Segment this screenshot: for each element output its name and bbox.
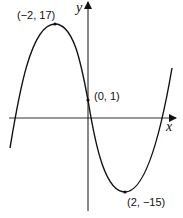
cubic-graph: (−2, 17) (0, 1) (2, −15) x y	[0, 0, 183, 218]
max-point-marker	[53, 22, 56, 25]
max-point-label: (−2, 17)	[17, 9, 55, 21]
min-point-label: (2, −15)	[127, 196, 165, 208]
cubic-curve	[10, 24, 172, 192]
intercept-point-label: (0, 1)	[94, 90, 120, 102]
x-axis-label: x	[165, 119, 173, 134]
min-point-marker	[123, 190, 126, 193]
intercept-point-marker	[86, 98, 89, 101]
y-axis-label: y	[74, 0, 83, 15]
